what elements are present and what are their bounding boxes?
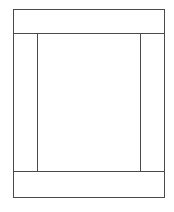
header-region bbox=[14, 10, 164, 34]
left-sidebar-region bbox=[14, 34, 38, 171]
right-sidebar-region bbox=[140, 34, 164, 171]
main-content-region bbox=[38, 34, 140, 171]
layout-frame bbox=[13, 9, 165, 198]
diagram-canvas bbox=[0, 0, 174, 212]
footer-region bbox=[14, 171, 164, 197]
